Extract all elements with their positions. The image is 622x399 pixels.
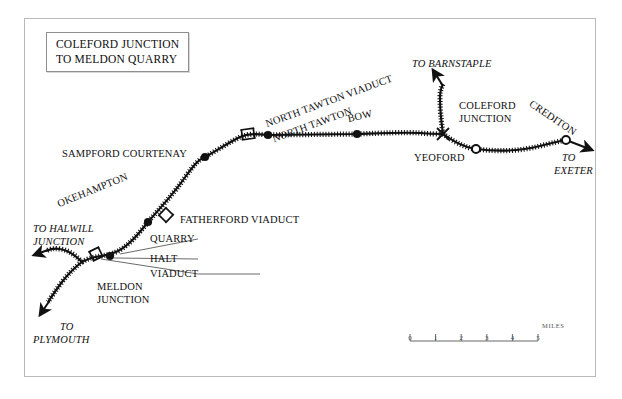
to-barnstaple-arrow — [433, 70, 443, 86]
label-to-plymouth-line-1: TO — [60, 321, 74, 333]
scale-bar-units: MILES — [542, 322, 565, 329]
scale-bar: 0 1 2 3 4 5 MILES — [408, 322, 558, 352]
label-viaduct: VIADUCT — [150, 268, 198, 280]
map-title-line-2: TO MELDON QUARRY — [56, 52, 179, 67]
railway-halwill-branch — [34, 249, 82, 262]
label-to-barnstaple: TO BARNSTAPLE — [412, 58, 491, 70]
scale-bar-ticks: 0 1 2 3 4 5 — [408, 334, 538, 344]
label-meldon-junction-line-1: MELDON — [97, 281, 143, 293]
to-plymouth-arrow — [40, 300, 50, 315]
label-coleford-junction-line-2: JUNCTION — [459, 113, 512, 125]
railway-barnstaple-branch — [433, 70, 443, 134]
station-marker-crediton — [562, 136, 570, 144]
station-marker-okehampton — [144, 218, 152, 226]
label-fatherford-viaduct: FATHERFORD VIADUCT — [180, 214, 299, 226]
label-to-halwill-line-2: JUNCTION — [33, 236, 84, 248]
station-marker-bow — [353, 130, 361, 138]
scale-tick-1: 1 — [434, 334, 438, 342]
label-to-exeter-line-2: EXETER — [554, 165, 593, 177]
label-yeoford: YEOFORD — [414, 152, 465, 164]
label-to-exeter-line-1: TO — [562, 152, 576, 164]
label-coleford-junction-line-1: COLEFORD — [459, 100, 516, 112]
station-marker-yeoford — [472, 145, 480, 153]
railway-map: COLEFORD JUNCTION TO MELDON QUARRY SAMPF… — [0, 0, 622, 399]
map-title-line-1: COLEFORD JUNCTION — [56, 37, 179, 52]
viaduct-symbol-fatherford — [158, 207, 174, 223]
label-to-halwill-line-1: TO HALWILL — [33, 223, 94, 235]
scale-tick-5: 5 — [536, 334, 540, 342]
scale-tick-4: 4 — [511, 334, 515, 342]
label-quarry: QUARRY — [150, 233, 195, 245]
map-title-box: COLEFORD JUNCTION TO MELDON QUARRY — [46, 32, 189, 72]
label-halt: HALT — [150, 253, 178, 265]
label-to-plymouth-line-2: PLYMOUTH — [33, 334, 89, 346]
scale-tick-0: 0 — [408, 334, 412, 342]
station-marker-meldon-quarry-halt — [106, 252, 114, 260]
scale-tick-2: 2 — [459, 334, 463, 342]
label-meldon-junction-line-2: JUNCTION — [97, 294, 150, 306]
railway-plymouth-branch — [40, 262, 82, 315]
scale-tick-3: 3 — [485, 334, 489, 342]
label-sampford-courtenay: SAMPFORD COURTENAY — [62, 148, 187, 160]
to-halwill-arrow — [34, 250, 48, 255]
station-marker-sampford-courtenay — [201, 153, 209, 161]
